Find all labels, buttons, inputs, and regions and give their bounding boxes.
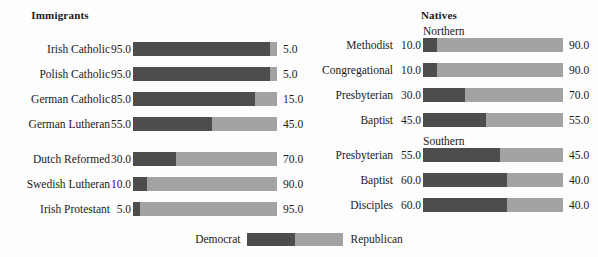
stacked-bar <box>133 67 277 81</box>
bar-row: Presbyterian30.070.0 <box>300 88 598 102</box>
bar-segment-republican <box>255 92 277 106</box>
bar-row: Irish Catholic95.05.0 <box>0 42 300 56</box>
stacked-bar <box>423 63 563 77</box>
legend-label-democrat: Democrat <box>195 232 240 246</box>
bar-row-label: German Catholic <box>0 92 110 106</box>
bar-segment-republican <box>212 117 277 131</box>
bar-row-label: Polish Catholic <box>0 67 110 81</box>
bar-row-label: Swedish Lutheran <box>0 177 110 191</box>
stacked-bar <box>423 198 563 212</box>
bar-row-label: Irish Protestant <box>0 202 110 216</box>
stacked-bar <box>423 88 563 102</box>
bar-row-republican-value: 45.0 <box>569 148 598 162</box>
bar-row-republican-value: 40.0 <box>569 198 598 212</box>
bar-row-democrat-value: 85.0 <box>106 92 131 106</box>
bar-row-label: Dutch Reformed <box>0 152 110 166</box>
bar-row: Swedish Lutheran10.090.0 <box>0 177 300 191</box>
bar-segment-republican <box>465 88 563 102</box>
bar-segment-democrat <box>423 38 437 52</box>
stacked-bar <box>133 92 277 106</box>
bar-segment-republican <box>437 63 563 77</box>
bar-row-democrat-value: 60.0 <box>396 198 421 212</box>
legend-label-republican: Republican <box>350 232 402 246</box>
stacked-bar-chart: Immigrants Irish Catholic95.05.0Polish C… <box>0 0 598 257</box>
bar-segment-republican <box>176 152 277 166</box>
stacked-bar <box>423 113 563 127</box>
bar-segment-republican <box>507 198 563 212</box>
bar-row: German Lutheran55.045.0 <box>0 117 300 131</box>
bar-row-democrat-value: 10.0 <box>396 63 421 77</box>
stacked-bar <box>133 42 277 56</box>
bar-segment-republican <box>270 67 277 81</box>
bar-row-label: Baptist <box>300 113 393 127</box>
panel-title-natives: Natives <box>290 9 588 21</box>
bar-row: Polish Catholic95.05.0 <box>0 67 300 81</box>
legend-swatch-republican <box>295 233 343 246</box>
bar-row-democrat-value: 55.0 <box>396 148 421 162</box>
bar-segment-republican <box>140 202 277 216</box>
bar-segment-democrat <box>423 173 507 187</box>
legend-swatch-democrat <box>247 233 295 246</box>
bar-row-democrat-value: 10.0 <box>396 38 421 52</box>
bar-segment-democrat <box>423 113 486 127</box>
bar-segment-democrat <box>133 177 147 191</box>
bar-row-democrat-value: 45.0 <box>396 113 421 127</box>
bar-segment-republican <box>486 113 563 127</box>
bar-row-republican-value: 90.0 <box>569 38 598 52</box>
bar-segment-republican <box>270 42 277 56</box>
bar-row-republican-value: 40.0 <box>569 173 598 187</box>
stacked-bar <box>133 117 277 131</box>
panel-immigrants: Immigrants Irish Catholic95.05.0Polish C… <box>0 0 300 257</box>
bar-row-label: Baptist <box>300 173 393 187</box>
subgroup-heading-southern: Southern <box>423 135 465 148</box>
bar-segment-democrat <box>133 152 176 166</box>
bar-row: Irish Protestant5.095.0 <box>0 202 300 216</box>
bar-row-democrat-value: 5.0 <box>106 202 131 216</box>
bar-row: Methodist10.090.0 <box>300 38 598 52</box>
bar-segment-democrat <box>133 202 140 216</box>
bar-row-label: Congregational <box>300 63 393 77</box>
bar-row: Disciples60.040.0 <box>300 198 598 212</box>
bar-row: Dutch Reformed30.070.0 <box>0 152 300 166</box>
bar-segment-democrat <box>133 42 270 56</box>
bar-row-democrat-value: 30.0 <box>396 88 421 102</box>
subgroup-heading-northern: Northern <box>423 25 465 38</box>
bar-segment-republican <box>507 173 563 187</box>
bar-row-democrat-value: 95.0 <box>106 42 131 56</box>
bar-row: German Catholic85.015.0 <box>0 92 300 106</box>
bar-row-republican-value: 90.0 <box>569 63 598 77</box>
panel-title-immigrants: Immigrants <box>0 9 210 21</box>
bar-row: Baptist60.040.0 <box>300 173 598 187</box>
stacked-bar <box>133 177 277 191</box>
bar-segment-republican <box>147 177 277 191</box>
bar-segment-democrat <box>133 67 270 81</box>
stacked-bar <box>423 148 563 162</box>
bar-row: Congregational10.090.0 <box>300 63 598 77</box>
bar-row: Presbyterian55.045.0 <box>300 148 598 162</box>
bar-row-democrat-value: 60.0 <box>396 173 421 187</box>
bar-segment-democrat <box>423 148 500 162</box>
panel-natives: Natives NorthernMethodist10.090.0Congreg… <box>300 0 598 257</box>
bar-row-label: German Lutheran <box>0 117 110 131</box>
stacked-bar <box>423 173 563 187</box>
stacked-bar <box>423 38 563 52</box>
bar-row-republican-value: 70.0 <box>569 88 598 102</box>
bar-row-democrat-value: 55.0 <box>106 117 131 131</box>
bar-row-label: Disciples <box>300 198 393 212</box>
bar-segment-democrat <box>133 117 212 131</box>
stacked-bar <box>133 152 277 166</box>
bar-row-label: Presbyterian <box>300 88 393 102</box>
bar-segment-democrat <box>423 198 507 212</box>
bar-segment-democrat <box>133 92 255 106</box>
bar-row-democrat-value: 10.0 <box>106 177 131 191</box>
bar-segment-democrat <box>423 63 437 77</box>
bar-row-label: Presbyterian <box>300 148 393 162</box>
legend-swatch <box>247 233 343 246</box>
bar-row-democrat-value: 95.0 <box>106 67 131 81</box>
bar-segment-republican <box>500 148 563 162</box>
bar-row: Baptist45.055.0 <box>300 113 598 127</box>
bar-row-republican-value: 55.0 <box>569 113 598 127</box>
bar-row-label: Irish Catholic <box>0 42 110 56</box>
bar-row-democrat-value: 30.0 <box>106 152 131 166</box>
chart-legend: Democrat Republican <box>0 231 598 247</box>
